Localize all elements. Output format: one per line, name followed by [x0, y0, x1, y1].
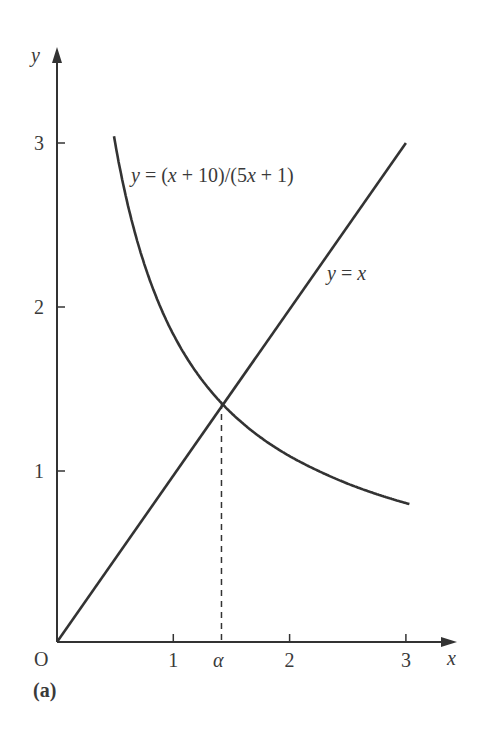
y-tick-label: 3	[34, 132, 44, 154]
x-tick-label: 3	[401, 649, 411, 671]
curve-label: y = (x + 10)/(5x + 1)	[129, 164, 294, 187]
line-label: y = x	[325, 262, 366, 285]
figure-canvas: 123123 y x O α (a) y = (x + 10)/(5x + 1)…	[0, 0, 492, 732]
alpha-label: α	[213, 649, 224, 671]
y-tick-label: 1	[34, 460, 44, 482]
x-axis-arrow-icon	[441, 637, 457, 647]
plot-area	[57, 136, 409, 642]
line-y-equals-x	[57, 143, 406, 642]
y-axis-arrow-icon	[52, 47, 62, 63]
y-axis-label: y	[29, 44, 40, 67]
x-tick-label: 2	[285, 649, 295, 671]
x-axis-label: x	[446, 647, 456, 669]
axes: 123123	[34, 47, 457, 671]
x-tick-label: 1	[168, 649, 178, 671]
curve-rational	[114, 136, 409, 504]
origin-label: O	[34, 648, 48, 670]
panel-label: (a)	[33, 679, 56, 702]
labels: y x O α (a) y = (x + 10)/(5x + 1) y = x	[29, 44, 456, 702]
y-tick-label: 2	[34, 296, 44, 318]
